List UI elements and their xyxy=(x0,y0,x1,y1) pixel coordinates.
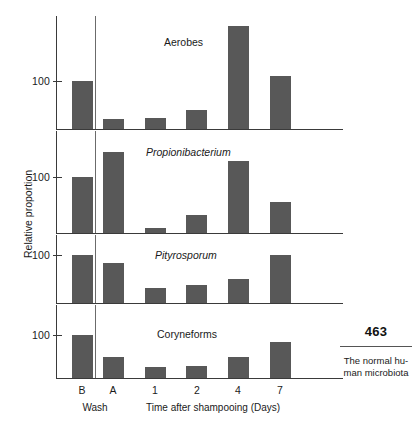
figure-chart: Relative proportion 100 Aerobes 100 Prop… xyxy=(0,0,419,424)
baseline-p3 xyxy=(56,378,343,379)
bar-p0-1 xyxy=(145,118,166,129)
bar-p2-B xyxy=(72,255,93,303)
y-tick-p3 xyxy=(53,335,62,336)
y-axis-line-p3 xyxy=(56,305,57,378)
bar-p0-2 xyxy=(186,110,207,129)
running-head: The normal hu- man microbiota xyxy=(338,355,414,379)
bar-p2-4 xyxy=(228,279,249,303)
y-axis-line-p2 xyxy=(56,235,57,304)
y-axis-line-p1 xyxy=(56,131,57,234)
bar-p3-4 xyxy=(228,357,249,378)
y-tick-label-p3: 100 xyxy=(10,329,50,341)
y-tick-label-p2: 100 xyxy=(10,249,50,261)
bar-p1-2 xyxy=(186,215,207,233)
y-tick-p1 xyxy=(53,177,62,178)
y-tick-label-p1: 100 xyxy=(10,171,50,183)
wash-divider-p3 xyxy=(95,305,96,378)
bar-p2-1 xyxy=(145,288,166,303)
bar-p3-A xyxy=(103,357,124,378)
bar-p0-7 xyxy=(270,76,291,129)
x-tick-label-1: 1 xyxy=(135,384,175,396)
y-axis-line-p0 xyxy=(56,16,57,130)
bar-p2-2 xyxy=(186,285,207,303)
bar-p2-7 xyxy=(270,255,291,303)
y-tick-p0 xyxy=(53,81,62,82)
bar-p0-A xyxy=(103,119,124,129)
wash-divider-p1 xyxy=(95,131,96,233)
bar-p0-4 xyxy=(228,26,249,129)
page-number: 463 xyxy=(338,324,414,339)
x-tick-label-A: A xyxy=(93,384,133,396)
margin-divider xyxy=(340,346,412,347)
y-tick-p2 xyxy=(53,255,62,256)
x-axis-label: Time after shampooing (Days) xyxy=(146,402,280,413)
x-tick-label-2: 2 xyxy=(177,384,217,396)
panel-title-pityrosporum: Pityrosporum xyxy=(155,249,217,261)
bar-p2-A xyxy=(103,263,124,303)
y-tick-label-p0: 100 xyxy=(10,75,50,87)
wash-caption: Wash xyxy=(65,402,125,413)
baseline-p2 xyxy=(56,303,343,304)
y-axis-label: Relative proportion xyxy=(22,170,34,258)
bar-p1-4 xyxy=(228,161,249,233)
panel-title-propionibacterium: Propionibacterium xyxy=(146,146,231,158)
bar-p3-7 xyxy=(270,342,291,378)
x-tick-label-4: 4 xyxy=(218,384,258,396)
bar-p3-2 xyxy=(186,366,207,378)
bar-p3-B xyxy=(72,335,93,378)
panel-title-aerobes: Aerobes xyxy=(164,36,203,48)
bar-p3-1 xyxy=(145,367,166,378)
panel-title-coryneforms: Coryneforms xyxy=(157,328,217,340)
margin-note: 463 The normal hu- man microbiota xyxy=(338,324,414,379)
bar-p1-B xyxy=(72,177,93,233)
baseline-p0 xyxy=(56,129,343,130)
bar-p0-B xyxy=(72,81,93,129)
bar-p1-7 xyxy=(270,202,291,233)
wash-divider-p0 xyxy=(95,16,96,129)
x-tick-label-7: 7 xyxy=(260,384,300,396)
bar-p1-1 xyxy=(145,228,166,233)
bar-p1-A xyxy=(103,152,124,233)
baseline-p1 xyxy=(56,233,343,234)
wash-divider-p2 xyxy=(95,235,96,303)
